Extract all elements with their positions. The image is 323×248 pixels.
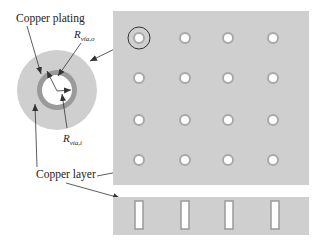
via <box>223 115 233 125</box>
via <box>223 155 233 165</box>
copper-plating-label: Copper plating <box>16 12 85 25</box>
copper-layer-label: Copper layer <box>36 168 96 181</box>
r-via-i-label: Rvia,i <box>62 132 82 147</box>
via <box>268 115 278 125</box>
via <box>268 73 278 83</box>
via-slot <box>135 201 143 229</box>
via <box>180 115 190 125</box>
via-slot <box>181 201 189 229</box>
cross-section-panel <box>113 197 309 235</box>
via <box>268 33 278 43</box>
via <box>223 33 233 43</box>
via <box>180 155 190 165</box>
top-view-panel <box>113 11 309 185</box>
via <box>134 33 144 43</box>
via <box>134 115 144 125</box>
r-via-o-label: Rvia,o <box>73 28 95 43</box>
via <box>180 73 190 83</box>
via <box>134 155 144 165</box>
via <box>180 33 190 43</box>
via <box>268 155 278 165</box>
via-slot <box>225 201 233 229</box>
copper-layer-leader-to-section <box>66 183 120 198</box>
via-array-diagram: Copper plating Rvia,o Rvia,i Copper laye… <box>0 0 323 248</box>
via <box>134 73 144 83</box>
enlarged-via-detail <box>17 50 97 130</box>
via <box>223 73 233 83</box>
via-slot <box>271 201 279 229</box>
